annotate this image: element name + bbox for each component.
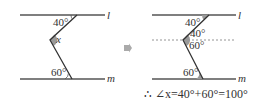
conclusion-equation: ∴ ∠x=40°+60°=100° xyxy=(144,87,248,102)
arrow-right-icon xyxy=(124,44,132,53)
label-angle-mid-lower: 60° xyxy=(189,39,204,51)
label-line-l: l xyxy=(238,9,241,21)
label-line-m: m xyxy=(107,72,115,84)
label-angle-bottom: 60° xyxy=(183,66,198,78)
label-angle-bottom: 60° xyxy=(51,66,66,78)
label-line-l: l xyxy=(107,9,110,21)
label-angle-x: x xyxy=(55,33,61,45)
left-figure: 40° x 60° l m xyxy=(20,9,115,84)
right-figure: 40° 40° 60° 60° l m xyxy=(152,9,246,84)
label-angle-mid-upper: 40° xyxy=(190,27,205,39)
label-line-m: m xyxy=(238,72,246,84)
label-angle-top: 40° xyxy=(53,16,68,28)
